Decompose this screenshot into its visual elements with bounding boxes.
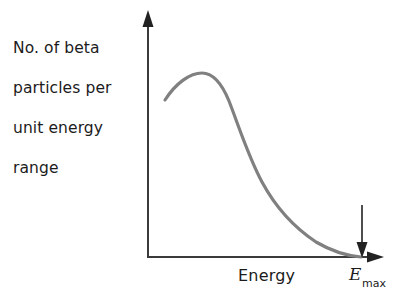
y-axis-label-line-1: No. of beta: [13, 38, 141, 58]
y-axis: [143, 10, 154, 258]
y-axis-label-line-3: unit energy: [13, 118, 141, 138]
beta-spectrum-figure: No. of beta particles per unit energy ra…: [0, 0, 401, 302]
x-axis-label: Energy: [238, 266, 295, 285]
emax-label: Emax: [349, 264, 385, 287]
x-axis: [147, 252, 384, 263]
beta-spectrum-curve: [165, 73, 361, 257]
emax-symbol: E: [349, 264, 361, 284]
y-axis-label-line-2: particles per: [13, 78, 141, 98]
emax-subscript: max: [362, 277, 386, 290]
y-axis-label-line-4: range: [13, 158, 141, 178]
y-axis-label: No. of beta particles per unit energy ra…: [13, 18, 141, 198]
emax-arrow-icon: [357, 205, 368, 258]
